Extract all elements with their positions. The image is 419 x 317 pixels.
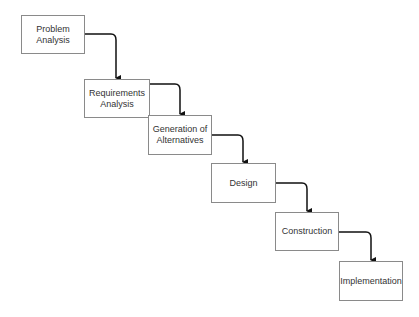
step-implementation: Implementation bbox=[339, 261, 403, 301]
step-requirements-analysis: Requirements Analysis bbox=[84, 79, 150, 118]
arrow-3 bbox=[212, 135, 243, 162]
step-generation-of-alternatives: Generation of Alternatives bbox=[148, 115, 212, 155]
arrow-2 bbox=[150, 84, 180, 114]
step-problem-analysis: Problem Analysis bbox=[21, 15, 85, 54]
arrow-4 bbox=[276, 183, 307, 211]
arrow-1 bbox=[85, 34, 116, 78]
arrow-5 bbox=[339, 232, 371, 260]
step-design: Design bbox=[211, 163, 276, 203]
step-construction: Construction bbox=[275, 212, 339, 251]
